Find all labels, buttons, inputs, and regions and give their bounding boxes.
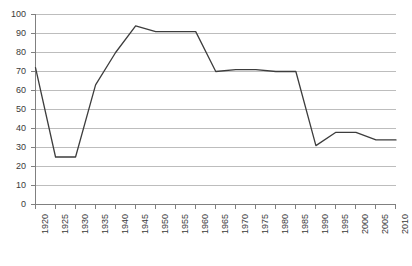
x-tick-label-1985: 1985	[301, 214, 310, 234]
y-tick-label-90: 90	[0, 29, 26, 38]
y-tick-label-70: 70	[0, 67, 26, 76]
line-chart: 100 90 80 70 60 50 40 30 20 10 0 1920 19…	[0, 0, 412, 266]
y-tick-label-30: 30	[0, 143, 26, 152]
x-tick-label-1955: 1955	[181, 214, 190, 234]
x-tick-label-2010: 2010	[401, 214, 410, 234]
y-tick-label-20: 20	[0, 162, 26, 171]
y-tick-label-100: 100	[0, 10, 26, 19]
y-tick-label-50: 50	[0, 105, 26, 114]
y-tick-label-10: 10	[0, 181, 26, 190]
x-tick-label-2000: 2000	[361, 214, 370, 234]
gridlines	[35, 15, 396, 186]
y-tick-label-0: 0	[0, 200, 26, 209]
x-tick-label-1990: 1990	[321, 214, 330, 234]
y-tick-label-80: 80	[0, 48, 26, 57]
x-tick-label-1945: 1945	[141, 214, 150, 234]
x-tick-label-1975: 1975	[261, 214, 270, 234]
x-tick-label-1960: 1960	[201, 214, 210, 234]
x-tick-label-1925: 1925	[61, 214, 70, 234]
x-tick-label-1965: 1965	[221, 214, 230, 234]
x-tick-label-1920: 1920	[41, 214, 50, 234]
y-tick-label-60: 60	[0, 86, 26, 95]
data-series-line	[36, 26, 397, 157]
x-tick-label-1930: 1930	[81, 214, 90, 234]
x-tick-label-1970: 1970	[241, 214, 250, 234]
y-axis-ticks	[31, 15, 35, 205]
x-tick-label-1935: 1935	[101, 214, 110, 234]
x-tick-label-1940: 1940	[121, 214, 130, 234]
x-tick-label-1950: 1950	[161, 214, 170, 234]
x-tick-label-2005: 2005	[381, 214, 390, 234]
x-tick-label-1980: 1980	[281, 214, 290, 234]
y-tick-label-40: 40	[0, 124, 26, 133]
x-tick-label-1995: 1995	[341, 214, 350, 234]
